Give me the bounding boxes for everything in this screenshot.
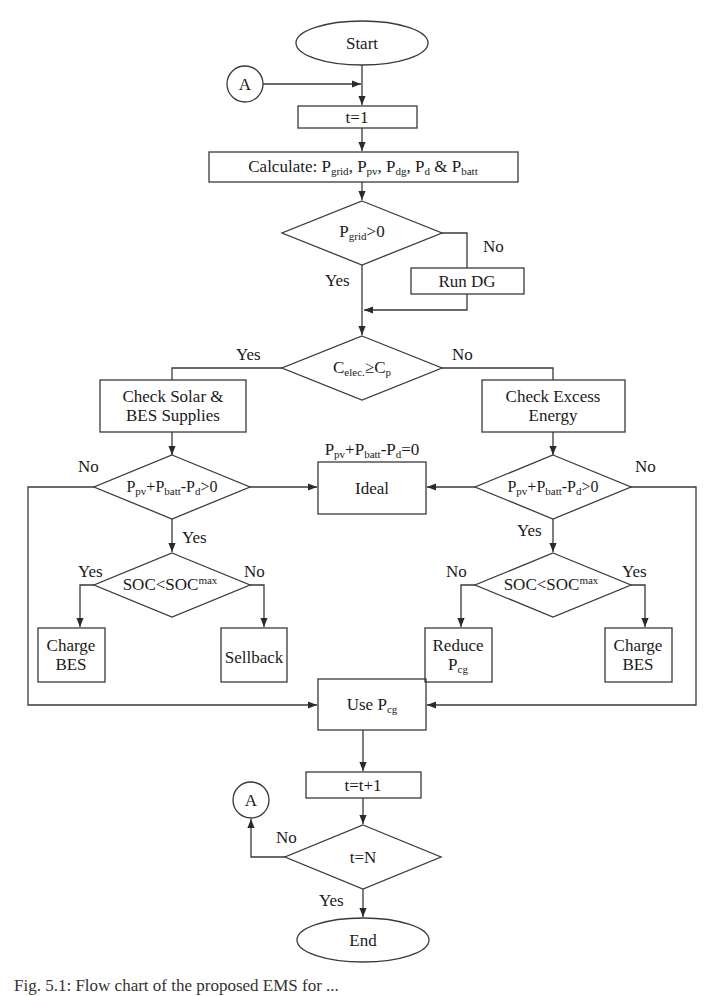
edge-label-cost-yes: Yes: [236, 345, 261, 364]
sub-cg: cg: [458, 663, 468, 675]
var: +P: [146, 478, 164, 495]
edge-label-grid-no: No: [483, 237, 504, 256]
check-excess-line2: Energy: [506, 406, 601, 425]
run-dg-label: Run DG: [438, 272, 495, 291]
line1: Reduce: [433, 636, 484, 655]
charge-bes-left-label: Charge BES: [47, 636, 96, 674]
var-p: P: [452, 157, 461, 176]
check-solar-line1: Check Solar &: [122, 387, 223, 406]
line2: BES: [47, 655, 96, 674]
var-p: P: [377, 695, 386, 714]
soc-left-label: SOC<SOCmax: [123, 575, 218, 594]
var: +P: [345, 440, 364, 459]
reduce-pcg-label: Reduce Pcg: [433, 636, 484, 674]
edge-label-left-balance-yes: Yes: [182, 528, 207, 547]
sellback-label: Sellback: [225, 648, 284, 667]
check-solar-line2: BES Supplies: [122, 406, 223, 425]
init-t-label: t=1: [346, 108, 369, 127]
var: +P: [527, 478, 545, 495]
edge-label-right-soc-yes: Yes: [622, 562, 647, 581]
check-solar-label: Check Solar & BES Supplies: [122, 387, 223, 425]
connector-a-top-label: A: [239, 75, 251, 94]
sep: &: [430, 157, 452, 176]
condition: ≥C: [365, 358, 386, 377]
end-check-label: t=N: [350, 848, 377, 867]
var-p: P: [357, 157, 366, 176]
var-p: P: [448, 655, 457, 674]
line1: Charge: [47, 636, 96, 655]
sub-cg: cg: [387, 703, 397, 715]
sub: batt: [164, 485, 181, 497]
edge-label-left-balance-no: No: [78, 457, 99, 476]
var-p: P: [415, 157, 424, 176]
edge-label-end-yes: Yes: [319, 891, 344, 910]
sub: batt: [545, 485, 562, 497]
var-p: P: [386, 157, 395, 176]
line1: Charge: [614, 636, 663, 655]
edge-label-end-no: No: [276, 828, 297, 847]
var: P: [126, 478, 135, 495]
ideal-note: Ppv+Pbatt-Pd=0: [325, 440, 420, 459]
edge-label-cost-no: No: [452, 345, 473, 364]
balance-left-label: Ppv+Pbatt-Pd>0: [126, 477, 217, 496]
edge-label-right-balance-no: No: [635, 457, 656, 476]
var: -P: [562, 478, 576, 495]
edge-label-right-balance-yes: Yes: [517, 521, 542, 540]
line2: BES: [614, 655, 663, 674]
sub: batt: [364, 448, 381, 460]
grid-check-label: Pgrid>0: [339, 222, 384, 241]
check-excess-label: Check Excess Energy: [506, 387, 601, 425]
figure-caption: Fig. 5.1: Flow chart of the proposed EMS…: [14, 976, 339, 996]
sub: pv: [135, 485, 146, 497]
sep: ,: [349, 157, 358, 176]
check-excess-line1: Check Excess: [506, 387, 601, 406]
charge-bes-right-label: Charge BES: [614, 636, 663, 674]
soc-text: SOC<SOC: [123, 575, 199, 594]
start-label: Start: [346, 34, 378, 53]
sep: ,: [407, 157, 416, 176]
sep: ,: [378, 157, 387, 176]
condition: >0: [201, 478, 218, 495]
condition: =0: [401, 440, 419, 459]
var: P: [507, 478, 516, 495]
sub-grid: grid: [331, 165, 349, 177]
edge-label-right-soc-no: No: [446, 562, 467, 581]
condition: >0: [582, 478, 599, 495]
edge-label-left-soc-no: No: [244, 562, 265, 581]
connector-a-bottom-label: A: [245, 791, 257, 810]
end-label: End: [349, 931, 376, 950]
calculate-label: Calculate: Pgrid, Ppv, Pdg, Pd & Pbatt: [248, 157, 477, 176]
prefix: Use: [347, 695, 378, 714]
var: -P: [181, 478, 195, 495]
sub: pv: [334, 448, 345, 460]
sup-max: max: [198, 574, 217, 586]
soc-right-label: SOC<SOCmax: [504, 575, 599, 594]
var-p: P: [321, 157, 330, 176]
sub-pv: pv: [367, 165, 378, 177]
condition: >0: [367, 222, 385, 241]
var: -P: [381, 440, 396, 459]
soc-text: SOC<SOC: [504, 575, 580, 594]
balance-right-label: Ppv+Pbatt-Pd>0: [507, 477, 598, 496]
sub-p: p: [385, 366, 391, 378]
sub-elec: elec.: [344, 366, 364, 378]
edge-label-grid-yes: Yes: [325, 271, 350, 290]
sub-grid: grid: [349, 230, 367, 242]
sub: pv: [516, 485, 527, 497]
cost-check-label: Celec.≥Cp: [333, 358, 391, 377]
use-pcg-label: Use Pcg: [347, 695, 398, 714]
ideal-label: Ideal: [355, 479, 389, 498]
sub-batt: batt: [461, 165, 478, 177]
increment-t-label: t=t+1: [344, 776, 381, 795]
edge-label-left-soc-yes: Yes: [78, 562, 103, 581]
sub-dg: dg: [396, 165, 407, 177]
line2: Pcg: [433, 655, 484, 674]
sup-max: max: [579, 574, 598, 586]
calculate-prefix: Calculate:: [248, 157, 321, 176]
var-c: C: [333, 358, 344, 377]
